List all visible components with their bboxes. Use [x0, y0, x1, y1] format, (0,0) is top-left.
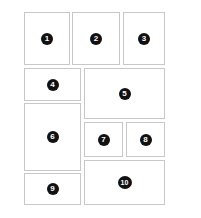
number-badge-10: 10 — [118, 176, 132, 189]
number-badge-5: 5 — [119, 88, 131, 100]
number-badge-6: 6 — [47, 131, 59, 143]
panel-4: 4 — [24, 68, 81, 101]
panel-6: 6 — [24, 103, 81, 171]
number-badge-8: 8 — [140, 134, 152, 146]
number-badge-2: 2 — [90, 33, 102, 45]
number-badge-4: 4 — [47, 79, 59, 91]
number-badge-9: 9 — [47, 183, 59, 195]
panel-1: 1 — [24, 12, 70, 65]
panel-8: 8 — [126, 122, 165, 157]
number-badge-7: 7 — [98, 134, 110, 146]
panel-7: 7 — [84, 122, 123, 157]
panel-2: 2 — [72, 12, 120, 65]
number-badge-1: 1 — [41, 33, 53, 45]
panel-5: 5 — [84, 68, 165, 119]
panel-3: 3 — [123, 12, 165, 65]
panel-10: 10 — [84, 160, 165, 205]
panel-9: 9 — [24, 173, 81, 205]
number-badge-3: 3 — [138, 33, 150, 45]
